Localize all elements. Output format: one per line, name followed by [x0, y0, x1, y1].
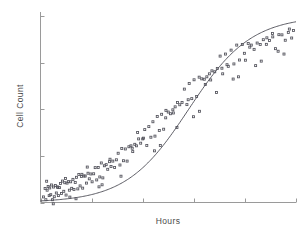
data-point [90, 173, 92, 175]
data-point [255, 65, 257, 67]
data-point [86, 166, 88, 168]
data-point [50, 194, 52, 196]
data-point [249, 46, 251, 48]
data-point [67, 181, 69, 183]
data-point [72, 178, 74, 180]
data-point [201, 78, 203, 80]
data-point [167, 111, 169, 113]
data-point [208, 73, 210, 75]
data-point [75, 198, 77, 200]
data-point [93, 173, 95, 175]
data-point [281, 34, 283, 36]
data-point [81, 173, 83, 175]
data-point [262, 39, 264, 41]
data-point [100, 162, 102, 164]
y-axis-label: Cell Count [15, 84, 25, 128]
data-point [77, 188, 79, 190]
data-point [71, 187, 73, 189]
data-point [45, 199, 47, 201]
data-point [183, 88, 185, 90]
data-point [158, 130, 160, 132]
data-point [226, 64, 228, 66]
data-point [112, 160, 114, 162]
data-point [233, 63, 235, 65]
data-point [99, 176, 101, 178]
data-point [172, 109, 174, 111]
data-point [43, 196, 45, 198]
data-point [101, 184, 103, 186]
data-point [288, 28, 290, 30]
data-point [57, 195, 59, 197]
data-point [107, 168, 109, 170]
data-point [176, 127, 178, 129]
data-point [236, 44, 238, 46]
data-point [97, 166, 99, 168]
data-point [108, 161, 110, 163]
data-point [260, 60, 262, 62]
data-point [259, 44, 261, 46]
y-axis-ticks [41, 17, 45, 204]
data-point [174, 106, 176, 108]
data-point [74, 182, 76, 184]
data-point [230, 49, 232, 51]
data-point [65, 194, 67, 196]
data-point [188, 83, 190, 85]
data-point [115, 159, 117, 161]
data-point [243, 52, 245, 54]
data-point [165, 109, 167, 111]
data-point [69, 196, 71, 198]
data-point [117, 152, 119, 154]
data-point [138, 138, 140, 140]
data-point [193, 116, 195, 118]
data-point [176, 102, 178, 104]
data-point [102, 177, 104, 179]
data-point [221, 67, 223, 69]
data-point [161, 113, 163, 115]
data-point [60, 193, 62, 195]
data-point [148, 126, 150, 128]
data-point [211, 70, 213, 72]
data-point [126, 160, 128, 162]
data-point [224, 53, 226, 55]
data-point [153, 150, 155, 152]
data-point [109, 158, 111, 160]
data-point [140, 142, 142, 144]
x-axis-ticks [42, 199, 297, 203]
data-point [137, 132, 139, 134]
data-point [65, 177, 67, 179]
data-point [191, 98, 193, 100]
data-point [136, 145, 138, 147]
data-point [152, 121, 154, 123]
data-point [76, 176, 78, 178]
data-point [52, 199, 54, 201]
data-point [46, 180, 48, 182]
data-point [278, 34, 280, 36]
data-point [238, 76, 240, 78]
data-point [219, 55, 221, 57]
data-point [198, 76, 200, 78]
data-point [292, 30, 294, 32]
data-point [256, 42, 258, 44]
data-point [105, 164, 107, 166]
x-axis-label: Hours [156, 216, 181, 226]
data-point [154, 135, 156, 137]
data-point [123, 160, 125, 162]
data-point [239, 59, 241, 61]
data-point [210, 79, 212, 81]
data-point [52, 203, 54, 205]
chart-figure: Hours Cell Count [0, 0, 308, 237]
data-point [172, 112, 174, 114]
data-point [82, 187, 84, 189]
data-point [70, 181, 72, 183]
data-point [144, 129, 146, 131]
data-point [272, 36, 274, 38]
data-point [121, 147, 123, 149]
data-point [53, 196, 55, 198]
data-point [287, 31, 289, 33]
data-point [266, 37, 268, 39]
data-point [55, 192, 57, 194]
data-point [271, 33, 273, 35]
data-point [131, 147, 133, 149]
data-point [156, 116, 158, 118]
data-point [132, 151, 134, 153]
